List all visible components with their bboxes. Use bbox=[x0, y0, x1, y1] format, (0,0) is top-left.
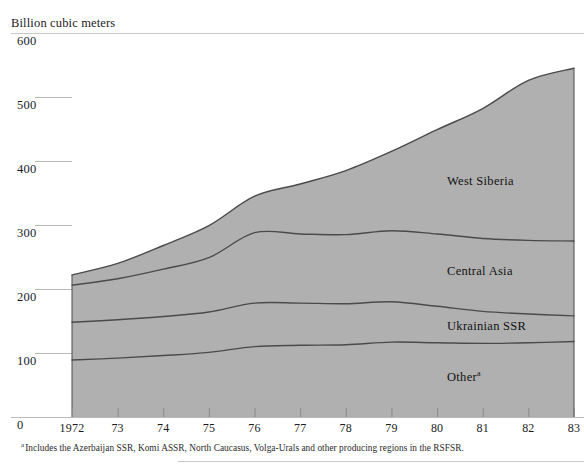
y-tick-label: 400 bbox=[17, 162, 36, 177]
y-tick-label: 600 bbox=[17, 34, 36, 49]
series-label-central-asia: Central Asia bbox=[447, 264, 513, 279]
footnote-marker: a bbox=[21, 441, 24, 449]
x-tick-label: 1972 bbox=[60, 421, 85, 436]
other-footnote-marker: a bbox=[477, 369, 481, 378]
chart-container: Billion cubic meters 0100200300400500600… bbox=[0, 0, 584, 465]
series-label-other: Othera bbox=[447, 369, 481, 385]
x-tick-label: 78 bbox=[340, 421, 352, 436]
footnote: aIncludes the Azerbaijan SSR, Komi ASSR,… bbox=[21, 441, 464, 453]
x-tick-label: 77 bbox=[294, 421, 306, 436]
series-label-ukrainian-ssr: Ukrainian SSR bbox=[447, 319, 526, 334]
stacked-area-plot bbox=[0, 0, 584, 465]
footnote-text: Includes the Azerbaijan SSR, Komi ASSR, … bbox=[25, 443, 464, 453]
y-tick-label: 0 bbox=[17, 418, 23, 433]
series-label-west-siberia: West Siberia bbox=[447, 174, 514, 189]
x-tick-label: 82 bbox=[522, 421, 534, 436]
y-tick-label: 200 bbox=[17, 290, 36, 305]
y-tick-label: 300 bbox=[17, 226, 36, 241]
y-tick-label: 500 bbox=[17, 98, 36, 113]
x-tick-label: 76 bbox=[248, 421, 260, 436]
x-tick-label: 79 bbox=[385, 421, 397, 436]
x-tick-label: 80 bbox=[431, 421, 443, 436]
bottom-rule-divider bbox=[178, 461, 584, 462]
x-tick-label: 83 bbox=[568, 421, 580, 436]
x-tick-label: 73 bbox=[111, 421, 123, 436]
x-tick-label: 81 bbox=[477, 421, 489, 436]
x-tick-label: 75 bbox=[203, 421, 215, 436]
x-tick-label: 74 bbox=[157, 421, 169, 436]
y-tick-label: 100 bbox=[17, 354, 36, 369]
